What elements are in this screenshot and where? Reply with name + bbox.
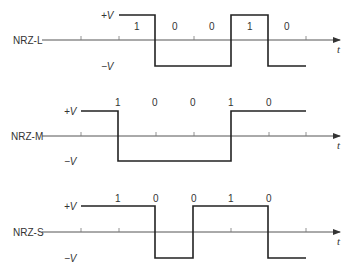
bit-label: 0 [153,193,159,204]
time-label: t [337,139,341,151]
row-nrz-l: NRZ-L t +V −V 1 0 0 1 0 [13,10,341,72]
bit-label: 0 [172,21,178,32]
nrz-diagram: NRZ-L t +V −V 1 0 0 1 0 NRZ-M t +V −V [0,0,352,270]
row-nrz-m: NRZ-M t +V −V 1 0 0 1 0 [11,97,341,167]
row-label-nrz-s: NRZ-S [13,227,44,238]
tick-marks [81,36,306,40]
time-label: t [337,43,341,55]
bit-label: 1 [115,193,121,204]
bit-label: 1 [247,21,253,32]
level-high-label: +V [64,106,78,117]
row-label-nrz-m: NRZ-M [11,131,43,142]
level-high-label: +V [64,201,78,212]
bit-label: 1 [134,21,140,32]
bit-label: 1 [228,97,234,108]
bit-label: 0 [152,97,158,108]
bit-label: 0 [266,193,272,204]
level-low-label: −V [64,156,78,167]
row-nrz-s: NRZ-S t +V −V 1 0 0 1 0 [13,193,341,264]
level-low-label: −V [101,61,115,72]
row-label-nrz-l: NRZ-L [13,35,43,46]
bit-label: 0 [209,21,215,32]
time-label: t [337,235,341,247]
level-high-label: +V [101,10,115,21]
bit-label: 1 [228,193,234,204]
level-low-label: −V [64,253,78,264]
bit-label: 0 [190,97,196,108]
bit-label: 0 [284,21,290,32]
bit-label: 1 [115,97,121,108]
bit-label: 0 [191,193,197,204]
tick-marks [81,132,306,136]
bit-label: 0 [266,97,272,108]
